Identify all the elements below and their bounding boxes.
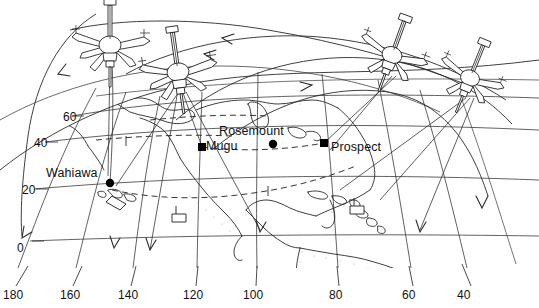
longitude-label-160: 160 bbox=[60, 288, 80, 302]
longitude-label-180: 180 bbox=[3, 288, 23, 302]
latitude-label-20: 20 bbox=[22, 183, 36, 197]
longitude-label-140: 140 bbox=[118, 288, 138, 302]
figure-canvas: 60 40 20 0 180 160 140 120 100 80 60 40 … bbox=[0, 0, 539, 308]
longitude-label-80: 80 bbox=[329, 288, 343, 302]
station-label-rosemount: Rosemount bbox=[219, 124, 284, 138]
latitude-label-60: 60 bbox=[63, 110, 77, 124]
longitude-label-100: 100 bbox=[243, 288, 263, 302]
longitude-label-60: 60 bbox=[402, 288, 416, 302]
station-label-mugu: Mugu bbox=[206, 139, 238, 153]
latitude-label-40: 40 bbox=[34, 136, 48, 150]
longitude-label-40: 40 bbox=[457, 288, 471, 302]
station-label-prospect: Prospect bbox=[331, 140, 381, 154]
longitude-label-120: 120 bbox=[183, 288, 203, 302]
latitude-label-0: 0 bbox=[17, 241, 24, 255]
longitude-axis-ticks bbox=[0, 0, 539, 308]
station-label-wahiawa: Wahiawa bbox=[46, 166, 98, 180]
